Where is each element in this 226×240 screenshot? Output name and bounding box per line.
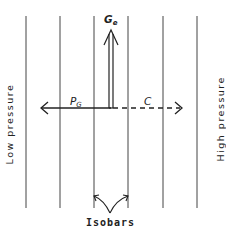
coriolis-label: C bbox=[144, 95, 151, 107]
isobars-label: Isobars bbox=[86, 217, 135, 228]
low-pressure-label: Low pressure bbox=[4, 95, 15, 165]
pressure-gradient-label: PG bbox=[70, 95, 82, 109]
isobar-lines bbox=[26, 16, 197, 208]
geostrophic-wind-arrow bbox=[104, 30, 118, 108]
geostrophic-wind-label: Ge bbox=[104, 13, 117, 27]
isobar-diagram bbox=[0, 0, 226, 240]
high-pressure-label: High pressure bbox=[215, 82, 226, 162]
arrowhead-up-icon bbox=[104, 30, 118, 45]
ge-label-sub: e bbox=[113, 19, 118, 27]
ge-label-main: G bbox=[104, 13, 113, 25]
pg-label-sub: G bbox=[76, 101, 81, 109]
isobars-pointer bbox=[94, 195, 128, 213]
